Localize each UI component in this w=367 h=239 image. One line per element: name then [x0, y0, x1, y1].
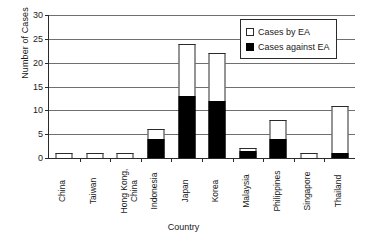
bar-chart: Number of Cases 051015202530 Country Cas… — [0, 0, 367, 239]
legend-label: Cases by EA — [258, 27, 310, 37]
x-axis-label: Thailand — [334, 162, 344, 220]
bar-segment-cases-by-ea — [270, 120, 287, 139]
y-tick-label: 15 — [33, 82, 43, 92]
bar-group — [171, 15, 202, 158]
x-tick-mark — [263, 158, 264, 162]
y-tick-label: 20 — [33, 58, 43, 68]
legend-item: Cases by EA — [246, 24, 330, 39]
y-tick-label: 30 — [33, 10, 43, 20]
bar-group — [80, 15, 111, 158]
y-tick-mark — [45, 158, 49, 159]
bar-group — [202, 15, 233, 158]
x-axis-label: Hong Kong, China — [120, 162, 139, 220]
bar-stack[interactable] — [270, 120, 287, 158]
bar-segment-cases-against-ea — [209, 101, 226, 158]
bar-segment-cases-against-ea — [331, 153, 348, 158]
x-axis-label: Singapore — [303, 162, 313, 220]
bar-segment-cases-by-ea — [117, 153, 134, 158]
x-tick-mark — [80, 158, 81, 162]
bar-stack[interactable] — [209, 53, 226, 158]
bar-group — [49, 15, 80, 158]
bar-stack[interactable] — [148, 129, 165, 158]
bar-segment-cases-by-ea — [209, 53, 226, 101]
bar-segment-cases-against-ea — [239, 151, 256, 158]
bar-group — [141, 15, 172, 158]
y-tick-label: 0 — [38, 153, 43, 163]
y-tick-label: 10 — [33, 105, 43, 115]
bar-group — [110, 15, 141, 158]
x-tick-mark — [110, 158, 111, 162]
x-axis-label: Korea — [212, 162, 222, 220]
bar-stack[interactable] — [117, 153, 134, 158]
x-axis-label: Philippines — [273, 162, 283, 220]
bar-stack[interactable] — [178, 44, 195, 158]
bar-stack[interactable] — [331, 106, 348, 158]
bar-stack[interactable] — [86, 153, 103, 158]
bar-segment-cases-against-ea — [270, 139, 287, 158]
legend-swatch-white — [246, 28, 254, 36]
bar-segment-cases-by-ea — [86, 153, 103, 158]
bar-stack[interactable] — [301, 153, 318, 158]
x-axis-label: Malaysia — [242, 162, 252, 220]
x-tick-mark — [294, 158, 295, 162]
bar-segment-cases-against-ea — [148, 139, 165, 158]
legend-item: Cases against EA — [246, 39, 330, 54]
x-axis-label: Japan — [181, 162, 191, 220]
x-axis-label: Indonesia — [150, 162, 160, 220]
x-axis-label: Taiwan — [89, 162, 99, 220]
x-tick-mark — [233, 158, 234, 162]
bar-segment-cases-by-ea — [331, 106, 348, 154]
bar-segment-cases-by-ea — [56, 153, 73, 158]
x-tick-mark — [171, 158, 172, 162]
legend-label: Cases against EA — [258, 42, 330, 52]
chart-legend: Cases by EACases against EA — [240, 19, 337, 59]
bar-segment-cases-by-ea — [178, 44, 195, 96]
bar-segment-cases-by-ea — [301, 153, 318, 158]
bar-segment-cases-against-ea — [178, 96, 195, 158]
x-axis-label: China — [59, 162, 69, 220]
y-tick-label: 25 — [33, 34, 43, 44]
y-axis-title: Number of Cases — [20, 0, 30, 108]
x-tick-mark — [141, 158, 142, 162]
x-tick-mark — [324, 158, 325, 162]
x-tick-mark — [202, 158, 203, 162]
bar-segment-cases-by-ea — [148, 129, 165, 139]
legend-swatch-black — [246, 43, 254, 51]
y-tick-label: 5 — [38, 129, 43, 139]
x-axis-title: Country — [0, 222, 367, 232]
bar-stack[interactable] — [56, 153, 73, 158]
bar-stack[interactable] — [239, 148, 256, 158]
